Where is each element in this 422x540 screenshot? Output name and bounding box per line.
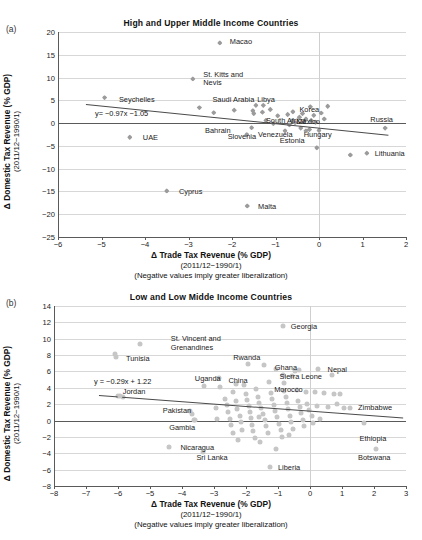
data-point <box>228 423 233 428</box>
data-point <box>311 421 316 426</box>
x-axis-subtitle-a: (2011/12−1990/1) <box>0 261 422 270</box>
data-point <box>262 417 267 422</box>
x-tick-label: 0 <box>317 240 321 249</box>
point-label: Saudi Arabia <box>212 94 254 103</box>
point-label: Sri Lanka <box>196 453 227 462</box>
data-point <box>274 447 279 452</box>
point-label: China <box>228 376 247 385</box>
y-axis-caption-a: Δ Domestic Tax Revenue (% GDP) (2011/12−… <box>2 67 21 217</box>
x-axis-caption-b: Δ Trade Tax Revenue (% GDP) (2011/12−199… <box>0 499 422 529</box>
gridline-horizontal <box>58 146 406 147</box>
x-tick-label: −8 <box>50 489 59 498</box>
y-tick-label: −20 <box>42 210 55 219</box>
data-point <box>338 391 343 396</box>
plot-area-a: 20151050−5−10−15−20−25−6−5−4−3−2−1012y= … <box>58 32 406 237</box>
point-label: Estonia <box>280 135 305 144</box>
data-point <box>240 427 245 432</box>
data-point <box>164 188 169 193</box>
x-tick-label: 1 <box>360 240 364 249</box>
x-axis-title-a: Δ Trade Tax Revenue (% GDP) <box>0 250 422 260</box>
gridline-horizontal <box>58 214 406 215</box>
point-label: Cyprus <box>179 186 202 195</box>
y-tick-label: 10 <box>43 334 51 343</box>
data-point <box>236 438 241 443</box>
zero-baseline <box>58 123 406 124</box>
point-label: Tunisia <box>126 354 150 363</box>
x-tick-mark <box>276 237 277 240</box>
point-label: Malta <box>258 202 276 211</box>
data-point <box>382 125 387 130</box>
data-point <box>348 405 353 410</box>
point-label: Ethiopia <box>360 433 387 442</box>
data-point <box>299 411 304 416</box>
x-tick-label: −7 <box>82 489 91 498</box>
data-point <box>230 430 235 435</box>
data-point <box>300 417 305 422</box>
gridline-horizontal <box>54 470 406 471</box>
data-point <box>289 420 294 425</box>
data-point <box>234 399 239 404</box>
y-tick-label: 15 <box>47 50 55 59</box>
data-point <box>244 392 249 397</box>
data-point <box>265 430 270 435</box>
gridline-horizontal <box>54 322 406 323</box>
point-label: Jordan <box>123 386 146 395</box>
data-point <box>257 400 262 405</box>
x-tick-mark <box>374 486 375 489</box>
x-tick-label: −3 <box>184 240 193 249</box>
y-tick-label: 0 <box>47 416 51 425</box>
data-point <box>335 402 340 407</box>
data-point <box>268 107 273 112</box>
trendline-equation: y= −0.97x −1.05 <box>95 108 148 117</box>
data-point <box>284 401 289 406</box>
data-point <box>276 421 281 426</box>
point-label: Macao <box>230 36 252 45</box>
x-tick-label: −1 <box>274 489 283 498</box>
y-tick-label: −15 <box>42 187 55 196</box>
point-label: UAE <box>143 133 158 142</box>
x-tick-label: −2 <box>242 489 251 498</box>
data-point <box>217 385 222 390</box>
data-point <box>202 384 207 389</box>
data-point <box>325 405 330 410</box>
point-label: Slovenia <box>228 132 256 141</box>
data-point <box>304 390 309 395</box>
x-tick-label: −4 <box>178 489 187 498</box>
chart-panel-a: (a) High and Upper Middle Income Countri… <box>0 0 422 278</box>
y-tick-label: −5 <box>46 141 55 150</box>
x-tick-mark <box>319 237 320 240</box>
data-point <box>364 150 369 155</box>
y-tick-label: 6 <box>47 367 51 376</box>
data-point <box>261 362 266 367</box>
y-tick-label: 0 <box>51 119 55 128</box>
y-tick-label: 10 <box>47 73 55 82</box>
y-tick-label: 12 <box>43 318 51 327</box>
x-axis-subtitle-b: (2011/12−1990/1) <box>0 510 422 519</box>
y-tick-label: −4 <box>42 449 51 458</box>
point-label: Mexico <box>296 117 319 126</box>
data-point <box>288 413 293 418</box>
data-point <box>114 354 119 359</box>
data-point <box>302 424 307 429</box>
data-point <box>252 435 257 440</box>
x-tick-label: 2 <box>404 240 408 249</box>
x-axis-note-b: (Negative values imply greater liberaliz… <box>0 520 422 529</box>
x-tick-mark <box>182 486 183 489</box>
data-point <box>261 103 266 108</box>
gridline-horizontal <box>58 32 406 33</box>
data-point <box>226 409 231 414</box>
y-tick-label: −10 <box>42 164 55 173</box>
data-point <box>260 109 265 114</box>
x-tick-mark <box>342 486 343 489</box>
chart-panel-b: (b) Low and Low Midde Income Countries Δ… <box>0 278 422 540</box>
data-point <box>197 105 202 110</box>
data-point <box>247 410 252 415</box>
x-axis-caption-a: Δ Trade Tax Revenue (% GDP) (2011/12−199… <box>0 250 422 280</box>
y-axis-line <box>54 306 55 486</box>
data-point <box>127 135 132 140</box>
point-label: Seychelles <box>119 94 155 103</box>
x-tick-mark <box>150 486 151 489</box>
gridline-horizontal <box>54 388 406 389</box>
chart-title-b: Low and Low Midde Income Countries <box>0 292 422 302</box>
point-label: Botswana <box>358 452 390 461</box>
